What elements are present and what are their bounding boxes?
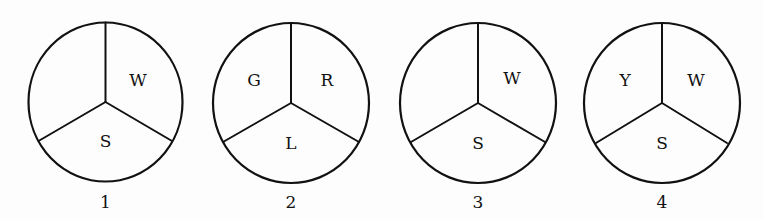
- circle-figure-3: W S 3: [400, 23, 556, 212]
- sector-label-bottom: S: [100, 131, 112, 151]
- sector-label-upper-left: Y: [618, 70, 631, 90]
- figure-number: 3: [473, 192, 484, 212]
- sector-label-bottom: S: [472, 133, 484, 153]
- figure-number: 4: [657, 192, 668, 212]
- spoke-lower-right: [478, 103, 545, 142]
- spoke-lower-left: [223, 103, 291, 142]
- circle-figure-1: W S 1: [29, 23, 183, 213]
- spoke-lower-left: [39, 102, 106, 141]
- sector-label-upper-left: G: [247, 70, 261, 90]
- spoke-lower-right: [662, 103, 727, 143]
- circle-figure-4: Y W S 4: [584, 23, 740, 212]
- sector-label-upper-right: W: [129, 70, 147, 90]
- three-sector-circles-figure: W S 1 G R L 2 W S 3 Y W S 4: [0, 0, 763, 220]
- sector-label-upper-right: R: [321, 70, 335, 90]
- sector-label-bottom: L: [285, 133, 296, 153]
- circle-figure-2: G R L 2: [213, 23, 369, 212]
- figure-number: 2: [286, 192, 297, 212]
- sector-label-bottom: S: [656, 133, 668, 153]
- spoke-lower-right: [291, 103, 359, 142]
- figure-number: 1: [100, 192, 111, 212]
- spoke-lower-right: [106, 102, 173, 141]
- spoke-lower-left: [596, 103, 662, 143]
- sector-label-upper-right: W: [687, 70, 705, 90]
- spoke-lower-left: [411, 103, 478, 142]
- sector-label-upper-right: W: [503, 68, 521, 88]
